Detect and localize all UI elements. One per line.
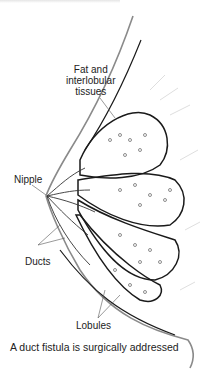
fat-tissue	[150, 75, 200, 290]
figure-caption: A duct fistula is surgically addressed	[10, 341, 179, 353]
label-line: interlobular	[66, 75, 115, 86]
lobes	[76, 112, 184, 301]
label-lobules: Lobules	[76, 320, 111, 331]
label-line: tissues	[66, 86, 115, 97]
label-fat-tissues: Fat and interlobular tissues	[66, 64, 115, 97]
label-ducts: Ducts	[25, 256, 51, 267]
label-line: Fat and	[66, 64, 115, 75]
leader-lines	[32, 98, 120, 318]
label-nipple: Nipple	[14, 174, 42, 185]
breast-anatomy-illustration	[0, 0, 205, 372]
ducts	[47, 168, 95, 265]
lobule-clusters	[109, 134, 172, 294]
